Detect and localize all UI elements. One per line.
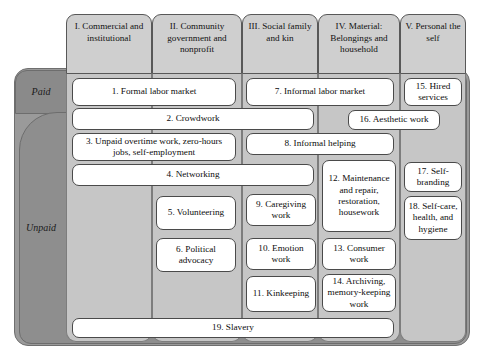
item-box-17: 17. Self-branding <box>404 162 462 192</box>
item-box-15: 15. Hired services <box>404 78 462 106</box>
item-box-16: 16. Aesthetic work <box>348 110 440 130</box>
item-box-9: 9. Caregiving work <box>246 194 316 226</box>
item-box-6: 6. Political advocacy <box>156 238 236 272</box>
item-box-2: 2. Crowdwork <box>72 108 314 130</box>
item-box-3: 3. Unpaid overtime work, zero-hours jobs… <box>72 133 236 161</box>
item-box-5: 5. Volunteering <box>156 196 236 230</box>
item-box-12: 12. Maintenance and repair, restoration,… <box>322 160 396 232</box>
column-header-5: V. Personal the self <box>400 14 466 74</box>
band-label-unpaid: Unpaid <box>16 222 66 233</box>
item-box-13: 13. Consumer work <box>322 238 396 270</box>
item-box-10: 10. Emotion work <box>246 238 316 270</box>
item-box-4: 4. Networking <box>72 164 314 186</box>
item-box-7: 7. Informal labor market <box>246 78 394 106</box>
item-box-8: 8. Informal helping <box>246 133 394 155</box>
column-header-2: II. Community government and nonprofit <box>152 14 242 74</box>
column-header-1: I. Commercial and institutional <box>66 14 152 74</box>
item-box-1: 1. Formal labor market <box>72 78 236 106</box>
item-box-14: 14. Archiving, memory-keeping work <box>322 274 396 312</box>
item-box-11: 11. Kinkeeping <box>246 276 316 312</box>
work-typology-diagram: I. Commercial and institutional II. Comm… <box>0 0 484 363</box>
band-label-paid: Paid <box>18 86 64 97</box>
item-box-19: 19. Slavery <box>72 318 394 338</box>
item-box-18: 18. Self-care, health, and hygiene <box>404 196 462 240</box>
column-header-4: IV. Material: Belongings and household <box>318 14 400 74</box>
column-header-3: III. Social family and kin <box>242 14 318 74</box>
